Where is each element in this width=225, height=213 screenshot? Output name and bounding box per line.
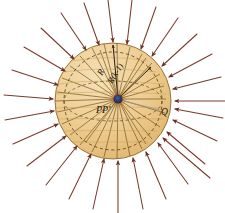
label-point-pair: PP' xyxy=(95,104,111,115)
field-diagram-svg: R R(k-1) PP' Q xyxy=(0,0,225,213)
label-charge: Q xyxy=(161,107,168,117)
central-charge xyxy=(109,90,127,108)
figure-root: R R(k-1) PP' Q xyxy=(0,0,225,213)
charge-dot xyxy=(113,94,122,103)
